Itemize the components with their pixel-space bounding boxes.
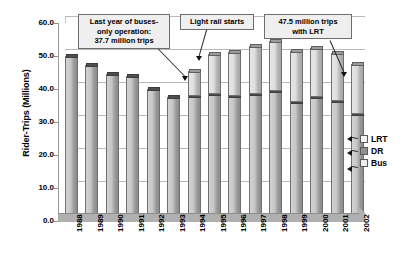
bar-segment-lrt[interactable] bbox=[228, 52, 241, 96]
x-axis-label: 1996 bbox=[239, 192, 248, 232]
bar-top-cap bbox=[250, 44, 262, 48]
x-axis-label: 1993 bbox=[178, 192, 187, 232]
legend-item-label: LRT bbox=[371, 135, 388, 144]
bar-top-cap bbox=[291, 49, 303, 53]
legend-item-lrt[interactable]: LRT bbox=[360, 133, 404, 145]
y-axis-label: 40.0 bbox=[20, 85, 54, 93]
x-axis-label: 1995 bbox=[219, 192, 228, 232]
bar-segment-lrt[interactable] bbox=[310, 48, 323, 97]
legend-item-bus[interactable]: Bus bbox=[360, 157, 404, 169]
bar-top-cap bbox=[168, 95, 180, 99]
dr-swatch-icon bbox=[360, 147, 368, 155]
bar-top-cap bbox=[66, 54, 78, 58]
x-axis-label: 1997 bbox=[259, 192, 268, 232]
x-axis-label: 1994 bbox=[198, 192, 207, 232]
x-axis-label: 1988 bbox=[75, 192, 84, 232]
bar-top-cap bbox=[209, 52, 221, 56]
bar-top-cap bbox=[189, 69, 201, 73]
bar-segment-lrt[interactable] bbox=[188, 71, 201, 96]
y-axis-label: 10.0 bbox=[20, 184, 54, 192]
bar-segment-lrt[interactable] bbox=[208, 54, 221, 94]
lrt-swatch-icon bbox=[360, 135, 368, 143]
bar-segment-lrt[interactable] bbox=[269, 41, 282, 91]
x-axis-label: 1989 bbox=[96, 192, 105, 232]
x-axis-label: 2002 bbox=[362, 192, 371, 232]
annotation-callout-light-rail-starts: Light rail starts bbox=[180, 14, 254, 30]
bar-segment-lrt[interactable] bbox=[351, 64, 364, 114]
bus-swatch-icon bbox=[360, 159, 368, 167]
x-axis-label: 1998 bbox=[280, 192, 289, 232]
bar-top-cap bbox=[107, 72, 119, 76]
annotation-arrow-icon bbox=[182, 76, 188, 81]
y-axis-label: 20.0 bbox=[20, 151, 54, 159]
x-axis-label: 1990 bbox=[116, 192, 125, 232]
annotation-callout-lrt-total: 47.5 million tripswith LRT bbox=[264, 14, 352, 39]
legend-item-label: Bus bbox=[371, 159, 387, 168]
bar-top-cap bbox=[148, 87, 160, 91]
annotation-line: 37.7 million trips bbox=[82, 36, 166, 46]
bar-top-cap bbox=[229, 50, 241, 54]
bar-top-cap bbox=[127, 74, 139, 78]
annotation-line: 47.5 million trips bbox=[268, 17, 348, 27]
bar-segment-lrt[interactable] bbox=[290, 51, 303, 102]
annotation-line: Last year of buses- bbox=[82, 17, 166, 27]
bar-top-cap bbox=[352, 62, 364, 66]
x-axis-label: 2000 bbox=[321, 192, 330, 232]
legend-item-label: DR bbox=[371, 147, 383, 156]
x-axis-label: 2001 bbox=[341, 192, 350, 232]
annotation-line: only operation: bbox=[82, 27, 166, 37]
y-axis-label: 50.0 bbox=[20, 52, 54, 60]
annotation-arrow-icon bbox=[196, 56, 202, 61]
chart-container: Rider-Trips (Millions) 60.050.040.030.02… bbox=[0, 0, 405, 278]
x-axis-label: 1999 bbox=[300, 192, 309, 232]
bar-top-cap bbox=[311, 46, 323, 50]
bar-segment-lrt[interactable] bbox=[249, 46, 262, 94]
annotation-line: Light rail starts bbox=[184, 17, 250, 27]
y-axis-label: 30.0 bbox=[20, 118, 54, 126]
annotation-callout-buses-only: Last year of buses-only operation:37.7 m… bbox=[78, 14, 170, 49]
y-axis-label: 0.0 bbox=[20, 217, 54, 225]
annotation-line: with LRT bbox=[268, 27, 348, 37]
y-axis-label: 60.0 bbox=[20, 19, 54, 27]
x-axis-label: 1992 bbox=[157, 192, 166, 232]
bar-top-cap bbox=[270, 39, 282, 43]
annotation-arrow-icon bbox=[341, 72, 347, 77]
x-axis-label: 1991 bbox=[137, 192, 146, 232]
chart-legend: LRTDRBus bbox=[360, 133, 404, 169]
bar-top-cap bbox=[86, 63, 98, 67]
legend-item-dr[interactable]: DR bbox=[360, 145, 404, 157]
